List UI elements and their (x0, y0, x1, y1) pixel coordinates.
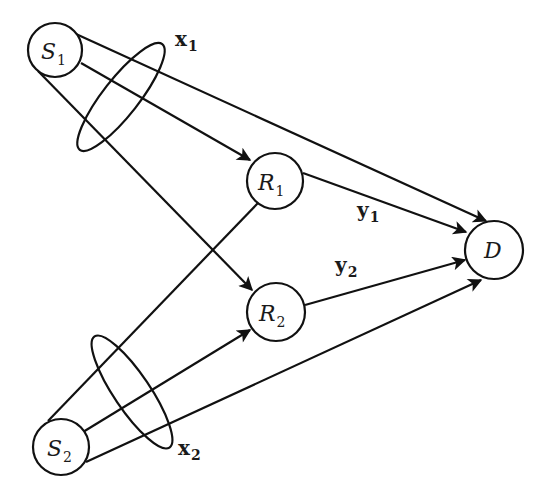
label-x2: x2 (178, 436, 201, 463)
edge-s1-r1 (81, 63, 250, 160)
edge-r1-d (303, 173, 466, 232)
node-circle-r2 (247, 283, 305, 341)
grouping-ellipse-x2 (80, 326, 185, 457)
node-s2: S2 (33, 419, 89, 475)
node-r1: R1 (247, 153, 303, 209)
node-circle-r1 (247, 153, 303, 209)
label-y2: y2 (334, 253, 357, 280)
node-d: D (465, 221, 523, 279)
node-label-d: D (483, 238, 502, 263)
node-s1: S1 (28, 23, 82, 77)
node-r2: R2 (247, 283, 305, 341)
label-x1: x1 (175, 27, 198, 54)
label-y1: y1 (356, 198, 379, 225)
edge-s1-r2 (38, 71, 252, 290)
relay-network-diagram: S1 R1 R2 D S2 x1 x2 y1 y2 (0, 0, 550, 494)
